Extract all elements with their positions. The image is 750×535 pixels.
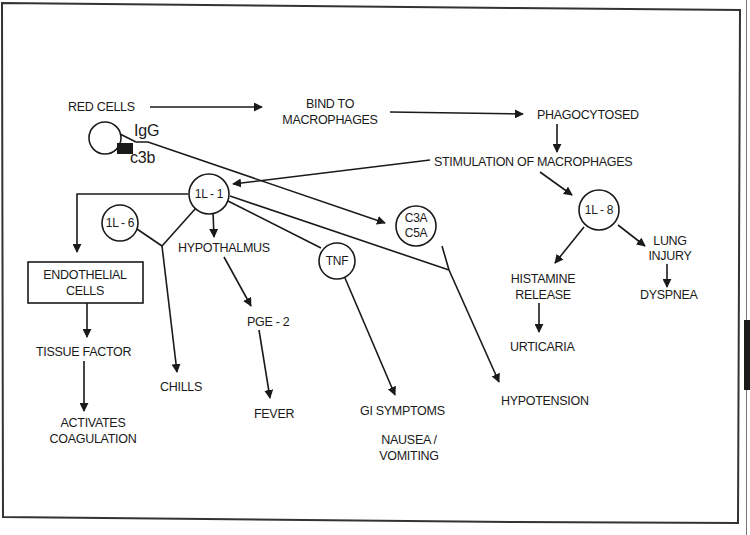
arrow-junction-to-chills — [162, 246, 177, 372]
label-activates-2: COAGULATION — [50, 432, 137, 446]
label-igg: IgG — [134, 122, 159, 139]
arrow-il1-to-hypothalmus — [213, 212, 214, 237]
label-stimulation: STIMULATION OF MACROPHAGES — [434, 155, 632, 169]
label-histamine-2: RELEASE — [515, 288, 571, 302]
label-il8: 1L - 8 — [585, 203, 614, 217]
label-lung-1: LUNG — [653, 234, 687, 248]
node-il6: 1L - 6 — [102, 205, 138, 241]
label-c3b: c3b — [130, 149, 155, 166]
arrow-hypothalmus-to-pge2 — [224, 257, 251, 306]
arrow-il8-to-histamine — [555, 227, 584, 263]
label-il6: 1L - 6 — [106, 216, 135, 230]
red-cell-circle-icon — [89, 122, 121, 154]
connectors — [77, 107, 667, 411]
node-endothelial: ENDOTHELIAL CELLS — [28, 262, 143, 303]
red-cell-group: IgG c3b — [89, 122, 159, 166]
label-nausea-1: NAUSEA / — [381, 433, 437, 447]
page-edge-line — [746, 0, 747, 535]
label-phagocytosed: PHAGOCYTOSED — [537, 108, 639, 122]
arrow-tnf-to-gi — [345, 278, 395, 395]
node-c3a-c5a: C3A C5A — [396, 206, 436, 246]
label-chills: CHILLS — [160, 380, 202, 394]
arrow-junction-to-hypotension — [449, 270, 499, 382]
label-hypothalmus: HYPOTHALMUS — [178, 241, 270, 255]
arrow-stimulation-to-il8 — [540, 172, 572, 195]
label-histamine-1: HISTAMINE — [511, 272, 575, 286]
label-bind-1: BIND TO — [306, 97, 355, 111]
label-nausea-2: VOMITING — [379, 449, 438, 463]
line-il6-to-chills-junction — [137, 229, 162, 246]
label-lung-2: INJURY — [648, 249, 692, 263]
label-tnf: TNF — [326, 254, 348, 268]
arrow-redcell-to-c3a — [136, 142, 385, 223]
label-il1: 1L - 1 — [195, 187, 224, 201]
label-urticaria: URTICARIA — [510, 340, 575, 354]
diagram-canvas: IgG c3b 1L - 1 1L - 6 C3A C5A TNF 1L - 8… — [0, 0, 750, 535]
label-dyspnea: DYSPNEA — [640, 288, 699, 302]
node-tnf: TNF — [319, 243, 355, 279]
label-bind-2: MACROPHAGES — [282, 113, 377, 127]
label-c3a: C3A — [405, 211, 428, 225]
label-endothelial-2: CELLS — [66, 284, 104, 298]
label-pge2: PGE - 2 — [247, 315, 290, 329]
label-hypotension: HYPOTENSION — [501, 394, 589, 408]
label-endothelial-1: ENDOTHELIAL — [43, 268, 127, 282]
label-c5a: C5A — [405, 226, 428, 240]
node-il1: 1L - 1 — [189, 174, 229, 214]
label-red-cells: RED CELLS — [68, 100, 135, 114]
page-edge-mark — [744, 320, 750, 390]
label-activates-1: ACTIVATES — [61, 416, 126, 430]
line-c3a-to-hypotension-junction — [442, 246, 449, 270]
arrow-bind-to-phagocytosed — [390, 112, 523, 114]
label-gi-symptoms: GI SYMPTOMS — [360, 404, 445, 418]
arrow-il8-to-lung — [618, 225, 645, 246]
pathway-diagram: IgG c3b 1L - 1 1L - 6 C3A C5A TNF 1L - 8… — [0, 0, 750, 535]
label-fever: FEVER — [254, 407, 294, 421]
label-tissue-factor: TISSUE FACTOR — [36, 345, 131, 359]
node-il8: 1L - 8 — [579, 190, 619, 230]
arrow-pge2-to-fever — [259, 330, 270, 398]
